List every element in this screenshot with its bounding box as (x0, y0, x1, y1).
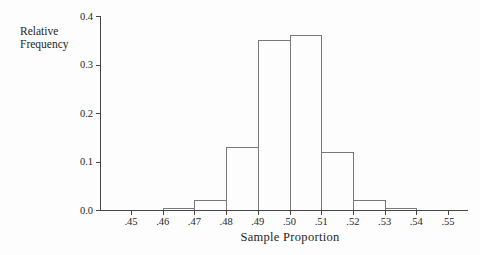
x-axis-tick-label: .48 (220, 216, 233, 227)
y-axis-tick-label: 0.0 (80, 205, 93, 216)
histogram-figure: 0.00.10.20.30.4.45.46.47.48.49.50.51.52.… (0, 0, 480, 255)
x-axis-title: Sample Proportion (170, 230, 410, 245)
y-axis-title: Relative Frequency (20, 25, 69, 51)
histogram-plot: 0.00.10.20.30.4.45.46.47.48.49.50.51.52.… (0, 0, 480, 255)
x-axis-tick-label: .53 (378, 216, 391, 227)
x-axis-tick-label: .52 (346, 216, 359, 227)
x-axis-tick-label: .47 (188, 216, 201, 227)
y-axis-tick-label: 0.2 (80, 108, 93, 119)
y-axis-title-line-1: Relative (20, 25, 69, 38)
y-axis-tick-label: 0.4 (80, 11, 94, 22)
histogram-bar (290, 36, 322, 211)
x-axis-tick-label: .50 (283, 216, 296, 227)
histogram-bar (227, 147, 259, 210)
histogram-bar (195, 201, 227, 211)
x-axis-tick-label: .46 (156, 216, 169, 227)
histogram-bar (258, 41, 290, 211)
x-axis-tick-label: .51 (315, 216, 328, 227)
histogram-bar (322, 152, 354, 210)
x-axis-tick-label: .55 (441, 216, 454, 227)
histogram-bar (353, 201, 385, 211)
x-axis-tick-label: .45 (124, 216, 137, 227)
y-axis-title-line-2: Frequency (20, 38, 69, 51)
y-axis-tick-label: 0.3 (80, 59, 93, 70)
x-axis-tick-label: .54 (410, 216, 424, 227)
y-axis-tick-label: 0.1 (80, 156, 93, 167)
x-axis-tick-label: .49 (251, 216, 264, 227)
